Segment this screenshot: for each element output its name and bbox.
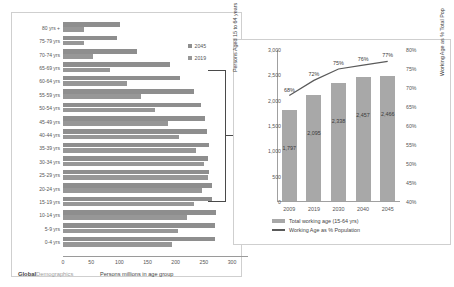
y-tick-label-left: 2,500	[268, 72, 281, 78]
age-bar-2019	[63, 242, 172, 247]
bar-value-label: 2,466	[381, 111, 395, 117]
age-bar-2019	[63, 188, 202, 193]
age-group-label: 50-54 yrs	[14, 105, 60, 111]
age-bar-2045	[63, 210, 216, 215]
age-bar-2019	[63, 81, 127, 86]
x-tick-label: 200	[171, 259, 180, 265]
working-age-bar	[331, 83, 346, 201]
x-category-label: 2019	[308, 206, 320, 212]
age-bar-2019	[63, 162, 204, 167]
legend-item[interactable]: 2045	[188, 43, 206, 49]
x-tick-label: 100	[115, 259, 124, 265]
age-group-label: 30-34 yrs	[14, 159, 60, 165]
working-age-bracket-annotation	[205, 70, 235, 202]
legend-item[interactable]: Total working age (15-64 yrs)	[272, 218, 360, 224]
age-group-label: 15-19 yrs	[14, 199, 60, 205]
y-tick-label-right: 55%	[406, 142, 416, 148]
x-axis-line	[63, 256, 248, 257]
age-bar-2019	[63, 41, 84, 46]
brand-light: Demographics	[36, 271, 73, 277]
y-tick-label-left: 500	[272, 174, 281, 180]
x-category-label: 2040	[357, 206, 369, 212]
legend-label: 2019	[195, 55, 207, 61]
brand-bold: Global	[18, 271, 36, 277]
plot-area	[277, 50, 400, 202]
percent-value-label: 72%	[308, 71, 319, 77]
y-tick-label-right: 45%	[406, 180, 416, 186]
age-group-label: 45-49 yrs	[14, 119, 60, 125]
age-bar-2045	[63, 116, 205, 121]
legend-swatch-icon	[188, 44, 192, 48]
age-bar-2019	[63, 229, 178, 234]
y-tick-label-right: 50%	[406, 161, 416, 167]
age-bar-2045	[63, 183, 212, 188]
age-bar-2019	[63, 94, 141, 99]
legend-item[interactable]: Working Age as % Population	[272, 227, 360, 233]
age-bar-2045	[63, 89, 194, 94]
legend-label: Working Age as % Population	[289, 227, 360, 233]
brand-logo: GlobalDemographics	[18, 271, 73, 277]
working-age-bar	[282, 110, 297, 201]
x-category-label: 2045	[382, 206, 394, 212]
percent-value-label: 76%	[358, 56, 369, 62]
legend-item[interactable]: 2019	[188, 55, 206, 61]
y-tick-label-left: 1,000	[268, 148, 281, 154]
age-group-label: 75-79 yrs	[14, 38, 60, 44]
percent-value-label: 75%	[333, 60, 344, 66]
legend-label: 2045	[195, 43, 207, 49]
age-bar-2045	[63, 62, 170, 67]
age-group-label: 60-64 yrs	[14, 78, 60, 84]
working-age-bar	[380, 76, 395, 201]
age-bar-2019	[63, 135, 179, 140]
age-group-label: 25-29 yrs	[14, 172, 60, 178]
age-bar-2045	[63, 197, 212, 202]
y-tick-label-right: 75%	[406, 66, 416, 72]
age-bar-2045	[63, 170, 209, 175]
y-tick-label-right: 65%	[406, 104, 416, 110]
x-category-label: 2009	[283, 206, 295, 212]
x-tick-label: 300	[228, 259, 237, 265]
y-tick-label-right: 70%	[406, 85, 416, 91]
x-tick-label: 150	[143, 259, 152, 265]
bracket-bottom-arm	[208, 201, 226, 202]
x-axis-baseline	[277, 201, 400, 202]
y-tick-label-left: 0	[278, 199, 281, 205]
screenshot-root: 80 yrs +75-79 yrs70-74 yrs65-69 yrs60-64…	[0, 0, 454, 287]
age-bar-2045	[63, 49, 137, 54]
x-tick-label: 0	[62, 259, 65, 265]
x-tick-label: 250	[200, 259, 209, 265]
y-tick-label-right: 60%	[406, 123, 416, 129]
age-group-label: 5-9 yrs	[14, 226, 60, 232]
age-group-label: 35-39 yrs	[14, 145, 60, 151]
age-group-label: 40-44 yrs	[14, 132, 60, 138]
age-group-label: 10-14 yrs	[14, 212, 60, 218]
y-axis-title-right: Working Age as % Total Pop	[439, 8, 445, 76]
age-bar-2045	[63, 103, 201, 108]
bar-value-label: 2,457	[356, 112, 370, 118]
legend-swatch-icon	[188, 56, 192, 60]
age-bar-2019	[63, 202, 194, 207]
age-bar-2019	[63, 121, 168, 126]
legend-line-icon	[272, 229, 285, 230]
age-bar-2045	[63, 76, 180, 81]
y-tick-label-right: 80%	[406, 47, 416, 53]
age-bar-2019	[63, 27, 84, 32]
age-group-label: 0-4 yrs	[14, 239, 60, 245]
age-group-label: 55-59 yrs	[14, 92, 60, 98]
y-tick-label-left: 1,500	[268, 123, 281, 129]
y-tick-label-left: 3,000	[268, 47, 281, 53]
legend-bar-icon	[272, 219, 285, 223]
age-bar-2019	[63, 54, 93, 59]
bar-value-label: 1,797	[283, 145, 297, 151]
age-bar-2045	[63, 237, 215, 242]
legend-age-pyramid: 20452019	[188, 43, 206, 67]
working-age-chart: Persons Aged 15 to 64 years Working Age …	[233, 39, 451, 245]
bar-value-label: 2,095	[307, 130, 321, 136]
working-age-bar	[356, 77, 371, 201]
age-group-label: 20-24 yrs	[14, 186, 60, 192]
bracket-top-arm	[208, 70, 226, 71]
age-category-axis: 80 yrs +75-79 yrs70-74 yrs65-69 yrs60-64…	[12, 21, 60, 249]
percent-value-label: 77%	[382, 52, 393, 58]
x-axis-title: Persons millions in age group	[100, 271, 173, 277]
percent-value-label: 68%	[284, 87, 295, 93]
